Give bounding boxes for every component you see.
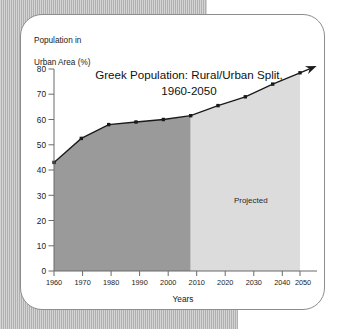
svg-text:1960: 1960 [46, 278, 62, 287]
data-point-1970 [80, 137, 83, 140]
svg-text:70: 70 [37, 89, 47, 99]
line-area-chart: Projected [21, 15, 325, 310]
svg-text:10: 10 [37, 241, 47, 251]
svg-text:40: 40 [37, 165, 47, 175]
data-point-2010 [189, 114, 192, 117]
area-historical [54, 116, 191, 271]
figure-card: Population in Urban Area (%) Projected [20, 14, 325, 310]
svg-text:20: 20 [37, 216, 47, 226]
data-point-1980 [107, 123, 110, 126]
data-point-1990 [134, 120, 137, 123]
svg-text:2000: 2000 [160, 278, 176, 287]
projected-annotation: Projected [234, 196, 268, 205]
svg-text:2020: 2020 [217, 278, 233, 287]
data-point-2040 [271, 82, 274, 85]
svg-text:0: 0 [41, 266, 46, 276]
y-axis-ticks [49, 69, 55, 271]
data-point-2050 [298, 71, 301, 74]
x-axis-ticks [54, 271, 300, 276]
svg-text:1990: 1990 [131, 278, 147, 287]
svg-text:1980: 1980 [103, 278, 119, 287]
data-point-2030 [244, 95, 247, 98]
x-axis-tick-labels: 1960 1970 1980 1990 2000 2010 2020 2030 … [46, 278, 311, 287]
x-axis-title: Years [173, 294, 194, 304]
svg-text:80: 80 [37, 64, 47, 74]
data-point-2000 [162, 118, 165, 121]
y-axis-tick-labels: 80 70 60 50 40 30 20 10 0 [37, 64, 47, 276]
chart-title-line2: 1960-2050 [161, 84, 216, 97]
svg-text:2030: 2030 [246, 278, 262, 287]
data-point-2020 [216, 104, 219, 107]
svg-text:30: 30 [37, 191, 47, 201]
svg-text:1970: 1970 [74, 278, 90, 287]
area-projected [191, 73, 300, 271]
svg-text:2050: 2050 [295, 278, 311, 287]
svg-text:60: 60 [37, 115, 47, 125]
svg-text:2040: 2040 [274, 278, 290, 287]
chart-title-line1: Greek Population: Rural/Urban Split, [95, 68, 283, 81]
svg-text:2010: 2010 [189, 278, 205, 287]
svg-text:50: 50 [37, 140, 47, 150]
